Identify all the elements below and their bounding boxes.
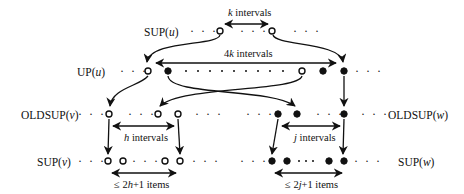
open-circle-node: [175, 111, 181, 117]
ellipsis: · · ·: [246, 107, 274, 121]
ellipsis: · · ·: [240, 24, 268, 38]
ellipsis: · · ·: [316, 107, 344, 121]
arrow-up-to-oldsup-v-middle: [160, 76, 302, 106]
label-oldsup-w: OLDSUP(w): [388, 109, 448, 122]
open-circle-node: [145, 68, 151, 74]
label-oldsup-v: OLDSUP(v): [21, 109, 79, 122]
filled-circle-node: [284, 158, 290, 164]
open-circle-node: [217, 28, 223, 34]
dotted-run: [185, 70, 284, 72]
open-circle-node: [162, 158, 168, 164]
row-oldsup-w: · · · · · · · · · OLDSUP(w): [246, 107, 448, 122]
arrow-oldsup-w-right-down: [343, 119, 344, 154]
arrow-oldsup-v-left-down: [108, 119, 109, 154]
ellipsis: · · ·: [132, 154, 160, 168]
ellipsis: · · ·: [354, 154, 382, 168]
filled-circle-node: [341, 68, 347, 74]
row-sup-w: · · · · · · SUP(w): [240, 154, 435, 169]
ellipsis: · · ·: [293, 24, 321, 38]
ellipsis: · · ·: [120, 64, 148, 78]
open-circle-node: [269, 28, 275, 34]
filled-circle-node: [326, 158, 332, 164]
ellipsis: · · ·: [192, 154, 220, 168]
filled-circle-node: [341, 111, 347, 117]
filled-circle-node: [294, 111, 300, 117]
merge-diagram: SUP(u) · · · · · · · · · k intervals UP(…: [0, 0, 464, 194]
open-circle-node: [155, 111, 161, 117]
annotation-h-intervals: h intervals: [124, 132, 168, 143]
open-circle-node: [299, 68, 305, 74]
annotation-sup-v-items: ≤ 2h+1 items: [114, 179, 169, 190]
row-sup-v: SUP(v) · · · · · · · · ·: [37, 154, 220, 169]
filled-circle-node: [165, 68, 171, 74]
dotted-run: [298, 160, 314, 162]
open-circle-node: [106, 111, 112, 117]
row-up-u: UP(u) · · · · · ·: [77, 64, 383, 79]
arrow-oldsup-w-left-down: [272, 119, 278, 154]
filled-circle-node: [269, 158, 275, 164]
filled-circle-node: [275, 111, 281, 117]
arrow-sup-to-up-right: [273, 35, 343, 62]
ellipsis: · · ·: [195, 107, 223, 121]
ellipsis: · · ·: [240, 154, 268, 168]
ellipsis: · · ·: [355, 64, 383, 78]
annotation-4k-intervals: 4k intervals: [224, 48, 273, 59]
row-oldsup-v: OLDSUP(v) · · · · · · · · ·: [21, 107, 223, 122]
annotation-j-intervals: j intervals: [292, 132, 336, 143]
ellipsis: · · ·: [361, 107, 389, 121]
filled-circle-node: [341, 158, 347, 164]
arrow-sup-to-up-left: [147, 35, 220, 62]
annotation-sup-w-items: ≤ 2j+1 items: [285, 179, 338, 190]
ellipsis: · · ·: [78, 107, 106, 121]
arrow-oldsup-v-right-down: [178, 119, 180, 154]
ellipsis: · · ·: [78, 154, 106, 168]
arrow-up-to-oldsup-v-left: [110, 76, 148, 106]
ellipsis: · · ·: [128, 107, 156, 121]
open-circle-node: [120, 158, 126, 164]
label-up-u: UP(u): [77, 66, 105, 79]
label-sup-w: SUP(w): [398, 156, 435, 169]
label-sup-v: SUP(v): [37, 156, 71, 169]
arrow-up-to-oldsup-w-middle: [168, 76, 295, 106]
open-circle-node: [105, 158, 111, 164]
row-sup-u: SUP(u) · · · · · · · · ·: [144, 24, 321, 39]
filled-circle-node: [320, 68, 326, 74]
open-circle-node: [177, 158, 183, 164]
ellipsis: · · ·: [190, 24, 218, 38]
label-sup-u: SUP(u): [144, 26, 179, 39]
annotation-k-intervals: k intervals: [228, 7, 271, 18]
